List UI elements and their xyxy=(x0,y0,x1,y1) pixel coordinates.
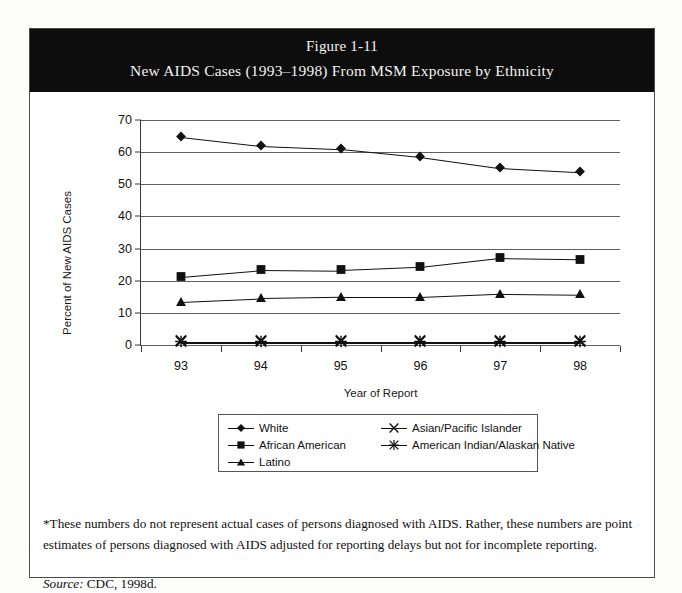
x-tick-label: 93 xyxy=(174,359,188,373)
chart-legend: WhiteAfrican AmericanLatino Asian/Pacifi… xyxy=(218,414,538,472)
y-tick-mark xyxy=(135,312,141,313)
x-axis-title: Year of Report xyxy=(141,387,620,399)
x-tick-mark xyxy=(221,346,222,352)
series-line-african-american xyxy=(181,270,261,278)
data-point-marker xyxy=(494,334,507,352)
series-line-latino xyxy=(181,298,261,303)
data-point-marker xyxy=(495,285,506,303)
x-tick-label: 96 xyxy=(413,359,427,373)
y-tick-label: 60 xyxy=(118,145,132,159)
data-point-marker xyxy=(335,140,346,158)
series-line-white xyxy=(420,157,500,169)
data-point-marker xyxy=(575,251,586,269)
legend-item[interactable]: African American xyxy=(228,437,346,453)
y-tick-mark xyxy=(135,216,141,217)
gridline xyxy=(141,184,620,185)
data-point-marker xyxy=(175,293,186,311)
x-tick-label: 97 xyxy=(493,359,507,373)
data-point-marker xyxy=(414,334,427,352)
series-line-american-indian-alaskan-native xyxy=(181,343,261,344)
data-point-marker xyxy=(335,261,346,279)
y-tick-label: 0 xyxy=(125,338,132,352)
series-line-african-american xyxy=(341,267,421,271)
x-tick-mark xyxy=(301,346,302,352)
y-axis-line xyxy=(140,120,141,345)
legend-label: White xyxy=(259,422,288,434)
legend-item[interactable]: Latino xyxy=(228,454,346,470)
data-point-marker xyxy=(255,289,266,307)
legend-marker-icon xyxy=(228,422,254,434)
legend-label: African American xyxy=(259,439,346,451)
source-label: Source: xyxy=(43,576,84,591)
figure-page: Figure 1-11 New AIDS Cases (1993–1998) F… xyxy=(0,0,682,593)
legend-column-right: Asian/Pacific IslanderAmerican Indian/Al… xyxy=(381,420,575,454)
y-tick-label: 50 xyxy=(118,177,132,191)
y-tick-mark xyxy=(135,248,141,249)
y-tick-label: 70 xyxy=(118,113,132,127)
series-line-african-american xyxy=(261,270,341,272)
y-tick-label: 20 xyxy=(118,274,132,288)
y-tick-label: 30 xyxy=(118,242,132,256)
legend-column-left: WhiteAfrican AmericanLatino xyxy=(228,420,346,471)
x-tick-mark xyxy=(381,346,382,352)
figure-title-banner: Figure 1-11 New AIDS Cases (1993–1998) F… xyxy=(30,29,654,92)
legend-marker-icon xyxy=(381,422,407,434)
legend-item[interactable]: American Indian/Alaskan Native xyxy=(381,437,575,453)
y-tick-label: 10 xyxy=(118,306,132,320)
x-tick-label: 94 xyxy=(254,359,268,373)
series-line-american-indian-alaskan-native xyxy=(420,343,500,344)
x-tick-mark xyxy=(141,346,142,352)
figure-title: New AIDS Cases (1993–1998) From MSM Expo… xyxy=(30,58,654,84)
series-line-white xyxy=(340,149,420,158)
series-line-american-indian-alaskan-native xyxy=(341,343,421,344)
data-point-marker xyxy=(575,163,586,181)
gridline xyxy=(141,313,620,314)
data-point-marker xyxy=(495,159,506,177)
gridline xyxy=(141,216,620,217)
figure-frame: Figure 1-11 New AIDS Cases (1993–1998) F… xyxy=(29,28,655,578)
x-tick-label: 98 xyxy=(573,359,587,373)
data-point-marker xyxy=(415,288,426,306)
data-point-marker xyxy=(255,261,266,279)
legend-item[interactable]: White xyxy=(228,420,346,436)
y-tick-mark xyxy=(135,280,141,281)
data-point-marker xyxy=(335,288,346,306)
y-tick-mark xyxy=(135,120,141,121)
data-point-marker xyxy=(174,334,187,352)
chart-area: Percent of New AIDS Cases 01020304050607… xyxy=(30,92,656,507)
y-tick-mark xyxy=(135,184,141,185)
series-line-latino xyxy=(261,297,341,299)
legend-marker-icon xyxy=(228,456,254,468)
y-tick-mark xyxy=(135,152,141,153)
series-line-white xyxy=(261,146,341,150)
data-point-marker xyxy=(175,128,186,146)
series-line-african-american xyxy=(420,258,500,268)
y-tick-label: 40 xyxy=(118,209,132,223)
series-line-white xyxy=(500,168,580,173)
series-line-white xyxy=(181,137,261,147)
x-tick-mark xyxy=(620,346,621,352)
x-tick-mark xyxy=(460,346,461,352)
series-line-latino xyxy=(341,297,421,298)
series-line-american-indian-alaskan-native xyxy=(261,343,341,344)
data-point-marker xyxy=(415,258,426,276)
data-point-marker xyxy=(175,268,186,286)
figure-number: Figure 1-11 xyxy=(30,34,654,58)
y-axis-title: Percent of New AIDS Cases xyxy=(61,163,73,363)
legend-label: Latino xyxy=(259,456,290,468)
data-point-marker xyxy=(255,137,266,155)
data-point-marker xyxy=(495,249,506,267)
legend-marker-icon xyxy=(228,439,254,451)
legend-label: American Indian/Alaskan Native xyxy=(412,439,575,451)
legend-item[interactable]: Asian/Pacific Islander xyxy=(381,420,575,436)
data-point-marker xyxy=(254,334,267,352)
series-line-african-american xyxy=(500,258,580,260)
gridline xyxy=(141,281,620,282)
data-point-marker xyxy=(575,285,586,303)
x-tick-label: 95 xyxy=(334,359,348,373)
gridline xyxy=(141,120,620,121)
series-line-latino xyxy=(500,294,580,296)
data-point-marker xyxy=(334,334,347,352)
legend-marker-icon xyxy=(381,439,407,451)
figure-source: Source: CDC, 1998d. xyxy=(43,576,157,592)
